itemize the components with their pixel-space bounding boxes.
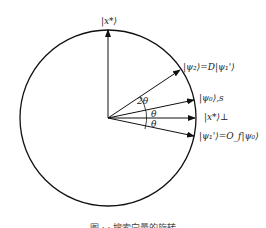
label-psi2: |ψ₂⟩=D|ψ₁'⟩ [183, 62, 235, 72]
label-x-perp: |x*⟩⊥ [204, 112, 229, 122]
label-psi1: |ψ₁'⟩=O_f|ψ₀⟩ [199, 131, 259, 141]
angle-2theta: 2θ [137, 96, 148, 106]
label-psi0: |ψ₀⟩,s [199, 93, 224, 103]
figure-caption: 图 · · 搜索向量的旋转 [0, 221, 266, 228]
label-x-star: |x*⟩ [101, 16, 117, 26]
angle-theta-lower: θ [151, 119, 156, 129]
angle-theta-upper: θ [151, 109, 156, 119]
